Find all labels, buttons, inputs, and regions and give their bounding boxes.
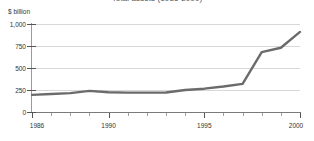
x-tick-label: 2000 [289, 122, 303, 129]
gridline [32, 24, 300, 25]
x-tick-mark-minor [223, 113, 224, 116]
x-tick-mark-major [109, 113, 110, 118]
gridline [32, 46, 300, 47]
x-tick-label: 1986 [30, 122, 44, 129]
x-tick-mark-minor [147, 113, 148, 116]
y-tick-label: 0 [22, 109, 26, 116]
y-tick-label: 750 [15, 43, 26, 50]
x-tick-mark-minor [166, 113, 167, 116]
chart-title: Total assets (1986-2000) [0, 0, 314, 3]
y-tick-label: 1,000 [10, 21, 26, 28]
y-tick-mark [27, 24, 36, 25]
x-tick-mark-major [32, 113, 33, 118]
x-tick-mark-minor [185, 113, 186, 116]
y-tick-label: 500 [15, 65, 26, 72]
gridline [32, 90, 300, 91]
x-tick-label: 1995 [197, 122, 211, 129]
x-tick-mark-major [204, 113, 205, 118]
y-tick-mark [27, 90, 36, 91]
x-tick-mark-minor [89, 113, 90, 116]
x-tick-mark-major [300, 113, 301, 118]
x-tick-mark-minor [51, 113, 52, 116]
y-tick-mark [27, 46, 36, 47]
y-axis-tick-labels: 02505007501,000 [0, 0, 26, 141]
y-tick-label: 250 [15, 87, 26, 94]
plot-area [32, 24, 300, 112]
y-tick-mark [27, 68, 36, 69]
x-tick-mark-minor [262, 113, 263, 116]
x-tick-mark-minor [281, 113, 282, 116]
x-tick-mark-minor [70, 113, 71, 116]
gridline [32, 68, 300, 69]
x-tick-mark-minor [128, 113, 129, 116]
x-tick-label: 1990 [101, 122, 115, 129]
x-tick-mark-minor [243, 113, 244, 116]
chart-figure: Total assets (1986-2000) $ billion 02505… [0, 0, 314, 141]
